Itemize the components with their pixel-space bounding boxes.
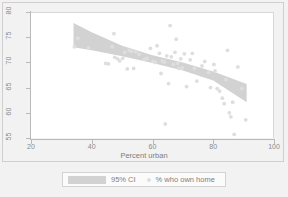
y-axis-tick-label: 75 [5, 25, 12, 47]
scatter-point [193, 67, 197, 71]
scatter-point [179, 57, 183, 61]
scatter-point [153, 60, 157, 64]
scatter-point [145, 56, 149, 60]
y-axis-tick-label: 65 [5, 75, 12, 97]
scatter-point [213, 69, 217, 73]
legend-label-points: % who own home [156, 175, 215, 184]
scatter-point [110, 45, 114, 49]
scatter-point [163, 122, 167, 126]
scatter-point [203, 59, 207, 63]
y-axis-tick [26, 113, 30, 114]
y-axis-tick [26, 12, 30, 13]
scatter-point [220, 96, 224, 100]
scatter-point [87, 46, 91, 50]
scatter-point [137, 52, 141, 56]
scatter-point [244, 118, 248, 122]
scatter-point [222, 102, 226, 106]
scatter-point [158, 51, 162, 55]
scatter-point [236, 65, 240, 69]
x-axis-tick-label: 100 [262, 143, 286, 150]
scatter-plot-figure: 55606570758020406080100 Percent urban 95… [0, 0, 288, 197]
scatter-point [107, 62, 111, 66]
scatter-point [180, 66, 184, 70]
scatter-point [169, 55, 173, 59]
y-axis-tick-label: 60 [5, 100, 12, 122]
scatter-point [130, 49, 134, 53]
x-axis-tick-label: 40 [80, 143, 104, 150]
scatter-point [231, 100, 235, 104]
scatter-point [155, 44, 159, 48]
scatter-point [227, 111, 231, 115]
scatter-point [209, 86, 213, 90]
scatter-point [132, 67, 136, 71]
scatter-point [148, 46, 152, 50]
scatter-point [165, 54, 169, 58]
y-axis-tick-label: 55 [5, 126, 12, 148]
scatter-point [168, 24, 172, 28]
y-axis-tick [26, 138, 30, 139]
scatter-point [173, 50, 177, 54]
scatter-point [176, 62, 180, 66]
x-axis-tick-label: 80 [201, 143, 225, 150]
scatter-point [232, 133, 236, 137]
x-axis-tick-label: 60 [141, 143, 165, 150]
y-axis-tick [26, 37, 30, 38]
scatter-point [172, 63, 176, 67]
x-axis-title: Percent urban [0, 151, 288, 160]
scatter-point [224, 78, 228, 82]
scatter-point [190, 51, 194, 55]
scatter-point [162, 60, 166, 64]
scatter-point [240, 87, 244, 91]
scatter-point [159, 72, 163, 76]
y-axis-line [30, 11, 31, 139]
scatter-point [195, 79, 199, 83]
scatter-point [174, 37, 178, 41]
scatter-point [185, 85, 189, 89]
plot-svg [31, 13, 274, 138]
scatter-point [207, 71, 211, 75]
scatter-point [182, 52, 186, 56]
scatter-point [218, 89, 222, 93]
x-axis-tick-label: 20 [19, 143, 43, 150]
scatter-point [123, 50, 127, 54]
scatter-point [229, 115, 233, 119]
scatter-point [121, 56, 125, 60]
scatter-point [134, 50, 138, 54]
scatter-point [76, 36, 80, 40]
scatter-point [118, 59, 122, 63]
scatter-point [125, 67, 129, 71]
scatter-point [188, 58, 192, 62]
y-axis-tick-label: 70 [5, 50, 12, 72]
scatter-point [112, 32, 116, 36]
scatter-point [73, 45, 77, 49]
y-axis-tick [26, 62, 30, 63]
y-axis-tick-label: 80 [5, 0, 12, 22]
scatter-point [226, 48, 230, 52]
scatter-point [167, 82, 171, 86]
scatter-point-swatch [147, 178, 151, 182]
scatter-point [212, 63, 216, 67]
ci-band-swatch [68, 176, 106, 184]
scatter-point [177, 67, 181, 71]
y-axis-tick [26, 88, 30, 89]
chart-legend: 95% CI % who own home [62, 172, 226, 187]
plot-area [31, 12, 274, 138]
legend-label-ci: 95% CI [111, 175, 136, 184]
scatter-point [200, 64, 204, 68]
